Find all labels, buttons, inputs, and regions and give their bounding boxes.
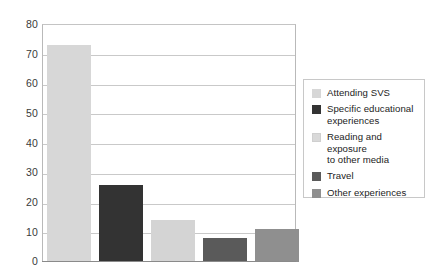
legend-item-specific-educational-experiences[interactable]: Specific educational experiences	[312, 103, 418, 126]
y-axis: 80 70 60 50 40 30 20 10 0	[0, 0, 38, 278]
y-axis-tick-80: 80	[0, 19, 38, 29]
y-axis-tick-30: 30	[0, 167, 38, 177]
legend-item-other-experiences[interactable]: Other experiences	[312, 187, 418, 198]
y-axis-tick-10: 10	[0, 227, 38, 237]
legend-swatch-icon-specific-educational-experiences	[312, 105, 321, 114]
legend-label-specific-educational-experiences: Specific educational experiences	[327, 103, 413, 126]
y-axis-tick-0: 0	[0, 256, 38, 266]
bar-chart: 80 70 60 50 40 30 20 10 0 Attending SVS	[0, 0, 442, 278]
legend-item-reading-and-exposure-to-other-media[interactable]: Reading and exposure to other media	[312, 131, 418, 165]
y-axis-tick-70: 70	[0, 49, 38, 59]
legend-swatch-icon-other-experiences	[312, 189, 321, 198]
x-axis-baseline	[42, 261, 296, 262]
legend-label-reading-and-exposure-to-other-media: Reading and exposure to other media	[327, 131, 418, 165]
y-axis-tick-20: 20	[0, 197, 38, 207]
legend-label-other-experiences: Other experiences	[327, 187, 406, 198]
legend-item-travel[interactable]: Travel	[312, 170, 418, 181]
bars-group	[42, 24, 296, 262]
bar-specific-educational-experiences[interactable]	[99, 185, 143, 262]
legend-item-attending-svs[interactable]: Attending SVS	[312, 87, 418, 98]
bar-other-experiences[interactable]	[255, 229, 299, 262]
bar-travel[interactable]	[203, 238, 247, 262]
bar-reading-and-exposure-to-other-media[interactable]	[151, 220, 195, 262]
legend-swatch-icon-travel	[312, 172, 321, 181]
legend-label-attending-svs: Attending SVS	[327, 87, 390, 98]
legend-swatch-icon-reading-and-exposure-to-other-media	[312, 133, 321, 142]
y-axis-tick-40: 40	[0, 138, 38, 148]
y-axis-tick-60: 60	[0, 78, 38, 88]
legend-label-travel: Travel	[327, 170, 354, 181]
legend: Attending SVS Specific educational exper…	[303, 79, 425, 198]
bar-attending-svs[interactable]	[47, 45, 91, 262]
legend-swatch-icon-attending-svs	[312, 89, 321, 98]
y-axis-tick-50: 50	[0, 108, 38, 118]
